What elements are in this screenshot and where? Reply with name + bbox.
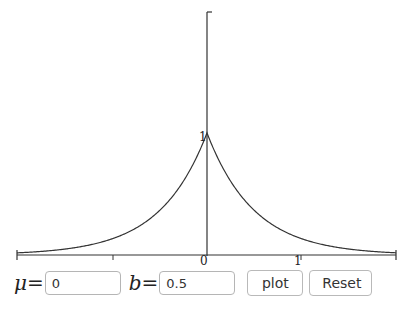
plot-button[interactable]: plot xyxy=(247,270,303,296)
b-input[interactable] xyxy=(159,271,235,295)
laplace-density-plot: 0 1 1 xyxy=(0,0,410,265)
reset-button[interactable]: Reset xyxy=(309,270,372,296)
x-tick-label-0: 0 xyxy=(200,254,208,265)
parameter-controls: μ= b= plot Reset xyxy=(14,268,372,298)
b-label: b= xyxy=(129,271,159,295)
mu-input[interactable] xyxy=(45,271,121,295)
x-tick-label-1: 1 xyxy=(294,254,302,265)
peak-value-label: 1 xyxy=(199,130,207,144)
mu-label: μ= xyxy=(14,271,44,295)
